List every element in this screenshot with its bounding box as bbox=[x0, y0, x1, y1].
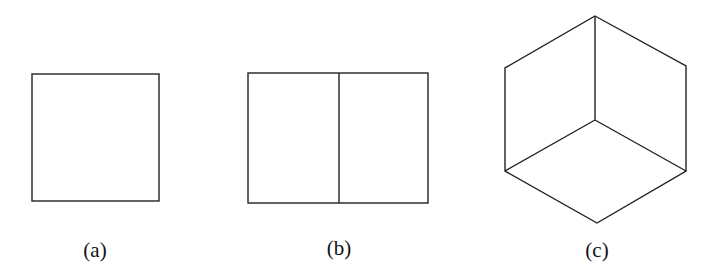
figure-a-label: (a) bbox=[83, 238, 106, 263]
figure-c-cube bbox=[505, 16, 686, 223]
diagram-canvas bbox=[0, 0, 718, 280]
figure-b-label: (b) bbox=[327, 236, 352, 261]
figure-a-square bbox=[32, 74, 159, 201]
figure-c-label: (c) bbox=[585, 238, 608, 263]
figure-b-rectangle bbox=[248, 73, 428, 203]
